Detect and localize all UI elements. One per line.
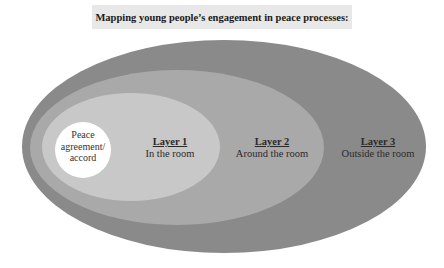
core-label-line2: agreement/ xyxy=(55,141,111,153)
layer-3-subtitle: Outside the room xyxy=(342,148,415,159)
layer-1-label: Layer 1 In the room xyxy=(130,136,210,160)
layer-2-heading: Layer 2 xyxy=(222,136,322,148)
layer-3-heading: Layer 3 xyxy=(328,136,428,148)
layer-2-label: Layer 2 Around the room xyxy=(222,136,322,160)
layer-3-label: Layer 3 Outside the room xyxy=(328,136,428,160)
layer-1-subtitle: In the room xyxy=(146,148,195,159)
core-label-line3: accord xyxy=(55,152,111,164)
layer-1-heading: Layer 1 xyxy=(130,136,210,148)
layer-2-subtitle: Around the room xyxy=(236,148,308,159)
core-label: Peace agreement/ accord xyxy=(55,129,111,164)
diagram-title: Mapping young people’s engagement in pea… xyxy=(95,12,348,23)
title-banner: Mapping young people’s engagement in pea… xyxy=(92,5,352,29)
core-label-line1: Peace xyxy=(55,129,111,141)
